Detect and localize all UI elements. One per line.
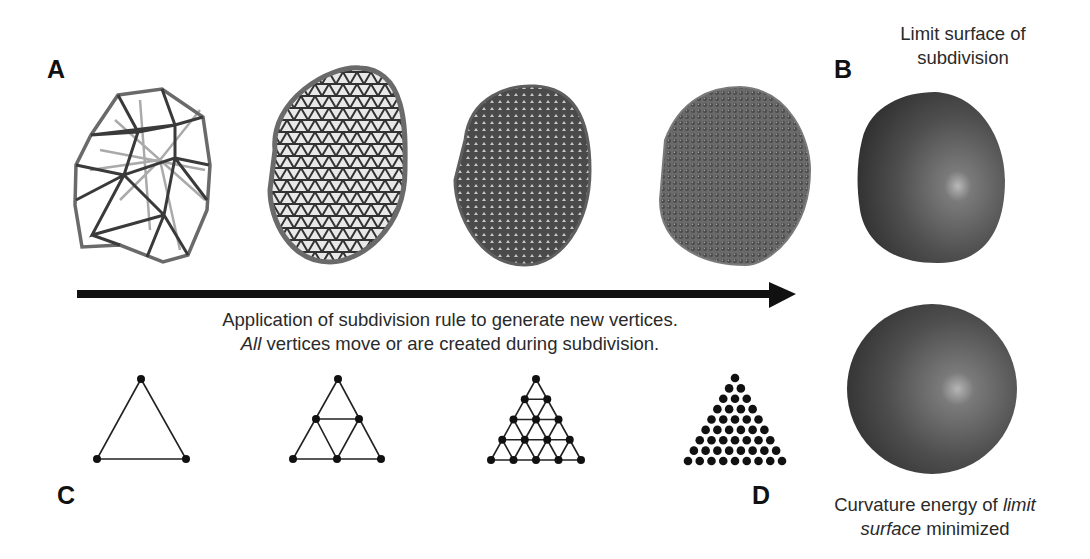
- coarse-icosahedral-mesh: [75, 89, 210, 262]
- minimized-energy-sphere: [847, 304, 1017, 474]
- panel-label-c: C: [57, 483, 75, 508]
- caption-arrow-line1: Application of subdivision rule to gener…: [100, 308, 800, 332]
- caption-b-line1: Limit surface of: [858, 22, 1068, 46]
- triangle-subdivision-1: [289, 375, 385, 463]
- triangle-subdivision-2: [487, 375, 585, 464]
- caption-b-line2: subdivision: [858, 46, 1068, 70]
- caption-d-line2: surface minimized: [790, 517, 1080, 541]
- caption-d-line1-text: Curvature energy of: [834, 494, 1003, 515]
- panel-label-b: B: [834, 57, 852, 82]
- subdivided-mesh-level-1: [260, 60, 420, 270]
- caption-limit-surface: Limit surface of subdivision: [858, 22, 1068, 70]
- panel-label-d: D: [752, 483, 770, 508]
- caption-d-emphasis-surface: surface: [860, 518, 921, 539]
- arrow-icon: [77, 282, 796, 308]
- triangle-subdivision-0: [93, 375, 190, 463]
- caption-curvature-energy: Curvature energy of limit surface minimi…: [790, 493, 1080, 541]
- caption-d-line1: Curvature energy of limit: [790, 493, 1080, 517]
- caption-arrow-line2-text: vertices move or are created during subd…: [261, 333, 659, 354]
- caption-d-emphasis-limit: limit: [1003, 494, 1036, 515]
- caption-arrow-line2: All vertices move or are created during …: [100, 332, 800, 356]
- subdivided-mesh-level-2: [455, 86, 590, 265]
- caption-d-line2-text: minimized: [921, 518, 1009, 539]
- panel-label-a: A: [47, 57, 65, 82]
- caption-arrow-emphasis: All: [241, 333, 262, 354]
- caption-subdivision-rule: Application of subdivision rule to gener…: [100, 308, 800, 356]
- subdivided-mesh-level-3: [660, 87, 810, 265]
- figure-canvas: [0, 0, 1090, 559]
- limit-surface-sphere: [858, 92, 1005, 263]
- triangle-subdivision-3: [684, 374, 787, 466]
